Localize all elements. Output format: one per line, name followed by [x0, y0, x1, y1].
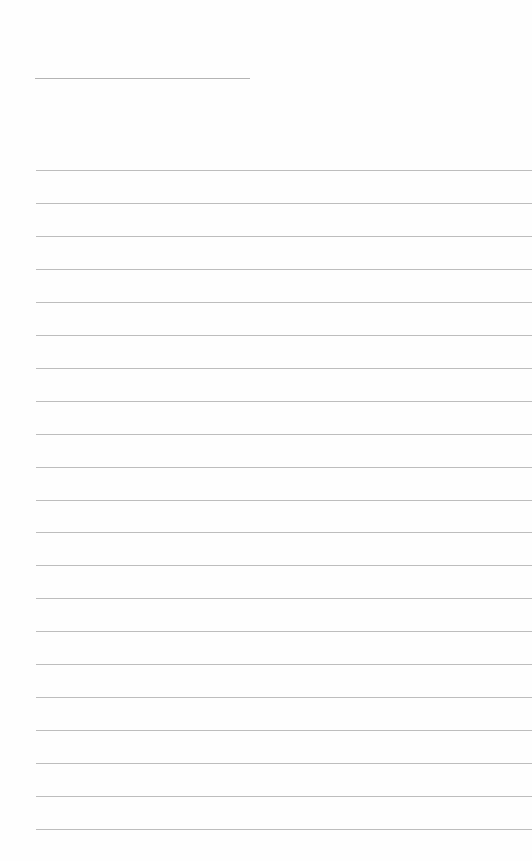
writing-line — [36, 302, 532, 303]
writing-line — [36, 368, 532, 369]
writing-line — [36, 631, 532, 632]
writing-line — [36, 730, 532, 731]
writing-line — [36, 401, 532, 402]
writing-line — [36, 664, 532, 665]
writing-line — [36, 269, 532, 270]
writing-line — [36, 335, 532, 336]
writing-line — [36, 763, 532, 764]
writing-line — [36, 236, 532, 237]
writing-line — [36, 697, 532, 698]
writing-line — [36, 434, 532, 435]
writing-line — [36, 532, 532, 533]
writing-line — [36, 565, 532, 566]
writing-line — [36, 829, 532, 830]
writing-line — [36, 500, 532, 501]
writing-line — [36, 203, 532, 204]
writing-line — [36, 796, 532, 797]
writing-line — [36, 598, 532, 599]
lined-page — [0, 0, 532, 861]
writing-line — [36, 467, 532, 468]
writing-line — [36, 170, 532, 171]
title-line — [35, 78, 250, 79]
